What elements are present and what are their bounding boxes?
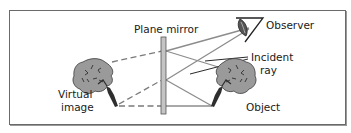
virtual-ray-top	[112, 51, 162, 62]
virtual-image-label-line1: Virtual	[58, 88, 92, 100]
plane-mirror-label: Plane mirror	[134, 23, 198, 35]
incident-ray-middle	[166, 80, 212, 106]
object-tree-icon	[211, 59, 256, 107]
observer-label: Observer	[266, 19, 314, 31]
virtual-ray-middle	[119, 80, 162, 104]
virtual-rays	[112, 51, 162, 106]
virtual-image-label-line2: image	[61, 101, 94, 113]
observer-eye-icon	[236, 18, 263, 42]
plane-mirror	[161, 37, 166, 114]
incident-ray-label-line2: ray	[260, 64, 277, 76]
incident-ray-label-line1: Incident	[251, 51, 293, 63]
object-label: Object	[246, 101, 280, 113]
